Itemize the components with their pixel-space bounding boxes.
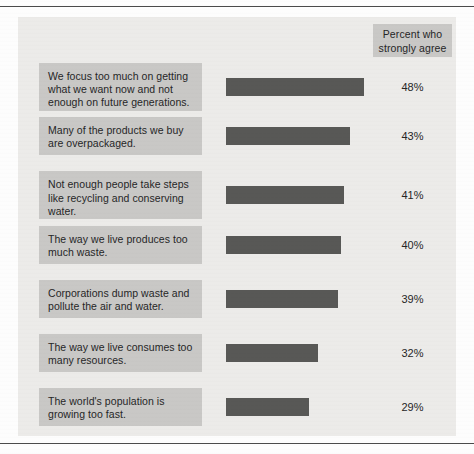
chart-panel: Percent who strongly agree We focus too … (18, 17, 456, 436)
column-header-line-1: Percent who (373, 27, 452, 41)
value-label: 39% (373, 293, 452, 305)
row-label: The way we live consumes too many resour… (39, 334, 202, 372)
value-label: 32% (373, 347, 452, 359)
value-bar (226, 127, 350, 145)
chart-row: We focus too much on getting what we wan… (18, 63, 456, 117)
chart-row: The world's population is growing too fa… (18, 388, 456, 442)
value-label: 43% (373, 130, 452, 142)
bar-track (226, 334, 426, 388)
bar-track (226, 388, 426, 442)
row-label: The world's population is growing too fa… (39, 388, 202, 426)
row-label: Many of the products we buy are overpack… (39, 117, 202, 155)
value-label: 41% (373, 189, 452, 201)
bar-track (226, 280, 426, 334)
bar-track (226, 226, 426, 280)
value-bar (226, 186, 344, 204)
chart-row: The way we live produces too much waste.… (18, 226, 456, 280)
value-bar (226, 290, 338, 308)
row-label: The way we live produces too much waste. (39, 226, 202, 264)
top-rule-line (0, 6, 474, 7)
row-label: Not enough people take steps like recycl… (39, 171, 202, 219)
value-label: 48% (373, 81, 452, 93)
column-header-percent-who-strongly-agree: Percent who strongly agree (373, 24, 452, 57)
column-header-line-2: strongly agree (373, 41, 452, 55)
chart-rows: We focus too much on getting what we wan… (18, 63, 456, 442)
value-bar (226, 398, 309, 416)
bar-track (226, 117, 426, 171)
value-bar (226, 78, 364, 96)
value-label: 40% (373, 239, 452, 251)
chart-row: Not enough people take steps like recycl… (18, 171, 456, 225)
value-bar (226, 236, 341, 254)
chart-page: Percent who strongly agree We focus too … (0, 0, 474, 454)
chart-row: The way we live consumes too many resour… (18, 334, 456, 388)
chart-row: Many of the products we buy are overpack… (18, 117, 456, 171)
row-label: We focus too much on getting what we wan… (39, 63, 202, 111)
value-label: 29% (373, 401, 452, 413)
bottom-rule-line (0, 443, 474, 444)
chart-row: Corporations dump waste and pollute the … (18, 280, 456, 334)
value-bar (226, 344, 318, 362)
row-label: Corporations dump waste and pollute the … (39, 280, 202, 318)
